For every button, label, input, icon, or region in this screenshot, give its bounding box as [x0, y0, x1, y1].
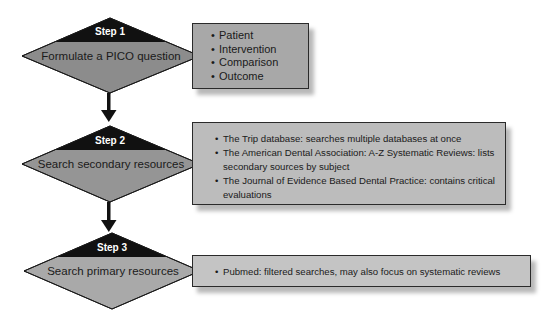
step-3-details-box: Pubmed: filtered searches, may also focu…	[192, 255, 531, 287]
step-2-title: Search secondary resources	[26, 157, 196, 171]
list-item: Outcome	[219, 70, 308, 84]
pico-flowchart: Step 1 Formulate a PICO question Step 2 …	[0, 0, 543, 319]
list-item: Intervention	[219, 43, 308, 57]
step-2-label: Step 2	[70, 135, 150, 147]
list-item: The Journal of Evidence Based Dental Pra…	[223, 174, 495, 202]
list-item: The Trip database: searches multiple dat…	[223, 132, 495, 146]
step-3-label: Step 3	[72, 242, 152, 254]
step-1-label: Step 1	[70, 26, 150, 38]
list-item: The American Dental Association: A-Z Sys…	[223, 146, 495, 174]
step-1-title: Formulate a PICO question	[26, 49, 196, 63]
list-item: Pubmed: filtered searches, may also focu…	[223, 265, 520, 279]
list-item: Comparison	[219, 56, 308, 70]
arrow-down-icon	[101, 93, 117, 122]
step-3-details-list: Pubmed: filtered searches, may also focu…	[223, 265, 520, 279]
step-3-title: Search primary resources	[28, 264, 198, 278]
step-1-diamond	[0, 0, 220, 93]
list-item: Patient	[219, 29, 308, 43]
arrow-down-icon	[101, 202, 117, 232]
step-2-details-list: The Trip database: searches multiple dat…	[223, 132, 495, 202]
step-1-details-box: Patient Intervention Comparison Outcome	[192, 23, 309, 89]
step-1-details-list: Patient Intervention Comparison Outcome	[219, 29, 308, 83]
step-2-details-box: The Trip database: searches multiple dat…	[192, 122, 506, 205]
